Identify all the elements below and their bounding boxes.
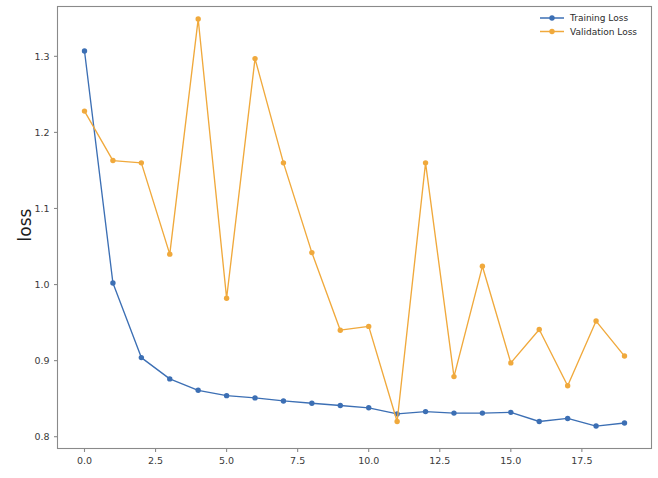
data-point	[394, 419, 399, 424]
y-tick-label: 1.2	[34, 127, 49, 138]
x-tick-label: 10.0	[358, 455, 379, 466]
data-point	[508, 360, 513, 365]
data-point	[451, 374, 456, 379]
x-tick-label: 0.0	[77, 455, 92, 466]
data-point	[281, 398, 286, 403]
data-point	[167, 251, 172, 256]
legend-marker	[549, 29, 554, 34]
x-tick-label: 2.5	[148, 455, 163, 466]
data-point	[622, 353, 627, 358]
figure-canvas: 1.31.21.11.00.90.8 0.02.55.07.510.012.51…	[0, 0, 658, 478]
data-point	[252, 56, 257, 61]
data-point	[195, 16, 200, 21]
y-tick-label: 1.3	[34, 51, 49, 62]
data-point	[565, 383, 570, 388]
data-point	[139, 160, 144, 165]
data-point	[537, 419, 542, 424]
data-point	[309, 401, 314, 406]
y-tick-label: 0.8	[34, 431, 49, 442]
x-tick-label: 15.0	[500, 455, 521, 466]
data-point	[565, 416, 570, 421]
data-point	[593, 423, 598, 428]
data-point	[139, 355, 144, 360]
x-axis-ticks: 0.02.55.07.510.012.515.017.5	[77, 449, 593, 466]
data-point	[281, 160, 286, 165]
data-point	[167, 376, 172, 381]
legend-label: Training Loss	[569, 13, 628, 23]
legend-label: Validation Loss	[570, 27, 637, 37]
line-chart: 1.31.21.11.00.90.8 0.02.55.07.510.012.51…	[0, 0, 658, 478]
legend-marker	[549, 15, 554, 20]
y-tick-label: 1.1	[34, 203, 49, 214]
x-tick-label: 7.5	[290, 455, 305, 466]
x-tick-label: 17.5	[571, 455, 592, 466]
axes-frame	[58, 7, 652, 449]
data-point	[309, 250, 314, 255]
data-point	[423, 409, 428, 414]
data-point	[508, 410, 513, 415]
y-axis-ticks: 1.31.21.11.00.90.8	[34, 51, 57, 442]
y-axis-label-holder: loss	[6, 0, 36, 478]
data-point	[423, 160, 428, 165]
data-point	[82, 108, 87, 113]
data-point	[537, 327, 542, 332]
data-point	[366, 405, 371, 410]
data-point	[593, 318, 598, 323]
data-point	[195, 388, 200, 393]
data-point	[110, 158, 115, 163]
chart-legend: Training LossValidation Loss	[540, 13, 637, 37]
x-tick-label: 5.0	[219, 455, 234, 466]
y-tick-label: 0.9	[34, 355, 49, 366]
data-point	[338, 328, 343, 333]
data-point	[110, 280, 115, 285]
data-point	[622, 420, 627, 425]
y-axis-label: loss	[15, 170, 35, 280]
data-point	[82, 48, 87, 53]
x-tick-label: 12.5	[429, 455, 450, 466]
series-line-validation-loss	[85, 19, 625, 421]
data-point	[224, 296, 229, 301]
data-point	[451, 410, 456, 415]
data-point	[252, 395, 257, 400]
data-point	[480, 264, 485, 269]
data-point	[366, 324, 371, 329]
y-tick-label: 1.0	[34, 279, 49, 290]
data-series-group	[82, 16, 627, 428]
data-point	[224, 393, 229, 398]
data-point	[338, 403, 343, 408]
data-point	[480, 410, 485, 415]
